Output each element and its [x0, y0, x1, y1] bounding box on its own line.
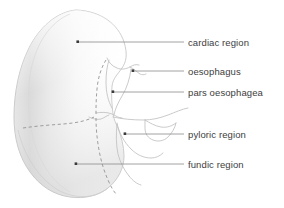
label-pars-oesophagea: pars oesophagea	[188, 87, 263, 98]
stomach-regions-figure: cardiac region oesophagus pars oesophage…	[0, 0, 284, 208]
label-cardiac-region: cardiac region	[188, 37, 249, 48]
label-pyloric-region: pyloric region	[188, 129, 246, 140]
labels-layer: cardiac region oesophagus pars oesophage…	[0, 0, 284, 208]
label-oesophagus: oesophagus	[188, 66, 241, 77]
label-fundic-region: fundic region	[188, 159, 244, 170]
